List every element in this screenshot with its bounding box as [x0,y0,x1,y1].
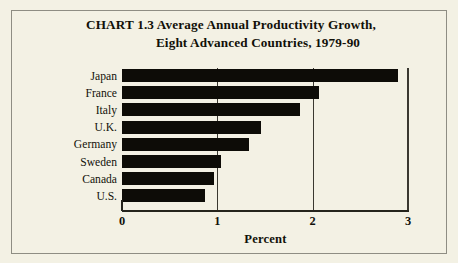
bar [122,189,205,202]
tick-label: 1 [197,214,237,229]
value-axis-right-line [407,68,409,211]
chart-title: CHART 1.3 Average Annual Productivity Gr… [0,16,458,52]
chart-figure: CHART 1.3 Average Annual Productivity Gr… [0,0,458,263]
category-label: U.K. [18,121,117,134]
chart-title-line-1: CHART 1.3 Average Annual Productivity Gr… [0,16,458,34]
category-axis-labels: JapanFranceItalyU.K.GermanySwedenCanadaU… [18,68,117,210]
value-axis-title: Percent [122,232,409,247]
category-label: U.S. [18,190,117,203]
bar [122,138,249,151]
category-label: Germany [18,138,117,151]
chart-title-line-2: Eight Advanced Countries, 1979-90 [0,34,458,52]
category-label: Canada [18,173,117,186]
bar [122,103,300,116]
category-label: Japan [18,70,117,83]
bar [122,172,214,185]
category-label: France [18,87,117,100]
bar [122,155,221,168]
category-label: Sweden [18,156,117,169]
bar [122,121,261,134]
bar [122,86,319,99]
tick-label: 2 [293,214,333,229]
plot-area [122,68,408,210]
bar [122,69,398,82]
value-axis-line [122,210,409,212]
tick-label: 0 [102,214,142,229]
tick-label: 3 [388,214,428,229]
category-label: Italy [18,104,117,117]
